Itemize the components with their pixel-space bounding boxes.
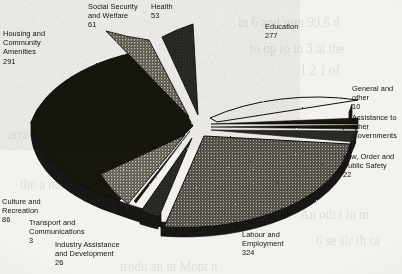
label-law-order-and-public-safety: Law, Order and Public Safety 22 [343, 152, 394, 180]
label-general-and-other: General and other 10 [352, 84, 393, 112]
slice-labour-and-employment [164, 136, 350, 228]
label-labour-and-employment: Labour and Employment 324 [242, 230, 284, 258]
label-education: Education 277 [265, 22, 298, 40]
label-housing-and-community-amenities: Housing and Community Amenities 291 [3, 29, 45, 66]
label-assistance-to-other-governments: Assistance to other Governments 7 [352, 113, 397, 150]
slice-education [210, 97, 358, 122]
slice-assistance-to-other-governments [211, 125, 358, 129]
label-social-security-and-welfare: Social Security and Welfare 61 [88, 2, 138, 30]
label-health: Health 53 [151, 2, 173, 20]
label-industry-assistance-and-development: Industry Assistance and Development 26 [55, 240, 120, 268]
